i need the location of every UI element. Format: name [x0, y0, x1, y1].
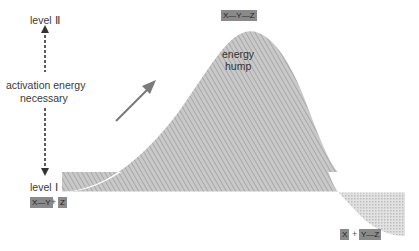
- reactant-xy-box: X—Y: [30, 197, 53, 208]
- level-1-label: level Ⅰ: [30, 181, 58, 193]
- level-2-label: level Ⅱ: [30, 14, 60, 26]
- activation-label-line1: activation energy: [6, 79, 85, 91]
- energy-diagram-graphics: [0, 0, 419, 251]
- arrow-up-head: [41, 25, 49, 33]
- arrow-down-head: [41, 168, 49, 176]
- activation-label-line2: necessary: [20, 92, 68, 104]
- hump-label-line2: hump: [225, 60, 251, 72]
- reactant-z-box: Z: [58, 197, 67, 208]
- energy-hump-fill: [64, 33, 338, 192]
- transition-state-box: X—Y—Z: [221, 10, 257, 21]
- product-yz-box: Y—Z: [359, 229, 381, 240]
- product-plus: +: [352, 229, 357, 240]
- hump-label-line1: energy: [222, 48, 254, 60]
- reactant-plus: +: [51, 197, 56, 208]
- direction-arrow: [116, 87, 150, 121]
- product-x-box: X: [340, 229, 349, 240]
